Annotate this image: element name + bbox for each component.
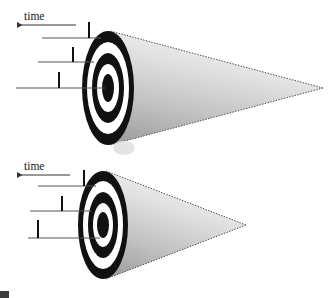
lower-target-rings: [78, 171, 128, 279]
lower-panel: time: [17, 160, 246, 279]
lower-ring-5-core: [97, 212, 109, 238]
lower-time-label: time: [24, 160, 44, 172]
figure-canvas: time: [0, 0, 331, 298]
upper-time-label: time: [24, 10, 44, 22]
lower-time-axis: time: [17, 160, 70, 175]
upper-panel: time: [16, 10, 323, 145]
upper-cone: [110, 31, 323, 145]
smudge-artifact: [113, 141, 135, 155]
corner-mark-artifact: [0, 291, 9, 298]
upper-cone-body: [110, 31, 323, 145]
light-cone-diagram-svg: time: [0, 0, 331, 298]
upper-time-axis: time: [17, 10, 76, 25]
